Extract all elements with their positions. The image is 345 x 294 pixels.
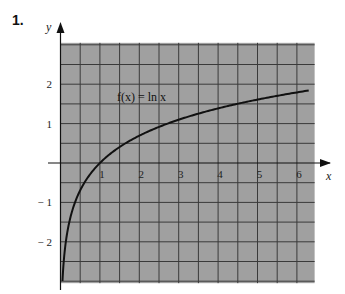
x-tick-label: 4: [217, 168, 223, 180]
x-tick-label: 2: [139, 168, 145, 180]
y-axis-arrow-icon: [57, 22, 65, 33]
y-axis-label: y: [45, 20, 52, 34]
y-tick-label: 1: [47, 118, 53, 130]
function-label: f(x) = ln x: [117, 90, 166, 104]
y-tick-label: − 2: [38, 236, 52, 248]
x-tick-label: 6: [296, 168, 302, 180]
x-tick-label: 3: [178, 168, 184, 180]
ln-function-chart: 1. xy12345621− 1− 2f(x) = ln x: [0, 0, 345, 294]
x-axis-arrow-icon: [320, 159, 331, 167]
x-axis-label: x: [325, 169, 332, 183]
y-tick-label: 2: [47, 78, 53, 90]
x-tick-label: 5: [257, 168, 263, 180]
plot-area: xy12345621− 1− 2f(x) = ln x: [38, 20, 332, 290]
problem-number: 1.: [12, 12, 24, 28]
y-tick-label: − 1: [38, 196, 52, 208]
x-tick-label: 1: [99, 168, 105, 180]
